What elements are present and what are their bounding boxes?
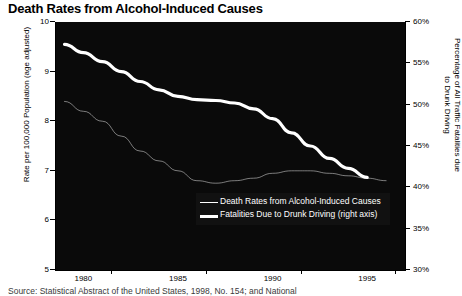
chart-legend: Death Rates from Alcohol-Induced Causes … [196,193,390,225]
legend-swatch-thin-line-icon [198,198,220,207]
legend-swatch-thick-line-icon [198,211,220,220]
plot-canvas [55,22,405,270]
legend-item-label: Fatalities Due to Drunk Driving (right a… [220,209,377,219]
legend-item-label: Death Rates from Alcohol-Induced Causes [220,196,381,206]
tick-mark [395,270,396,274]
tick-mark [111,270,112,274]
tick-mark [405,21,410,22]
legend-item: Fatalities Due to Drunk Driving (right a… [198,209,388,220]
tick-mark [206,270,207,274]
tick-mark [405,228,410,229]
left-axis-line [55,22,56,271]
x-axis-tick-label: 1990 [253,274,293,283]
x-axis-tick-label: 1995 [347,274,387,283]
data-line-death-rates [65,101,387,183]
right-axis-tick-label: 30% [413,265,447,274]
x-axis-tick-label: 1985 [158,274,198,283]
left-axis-label: Rate per 100,000 Population (age adjuste… [22,25,31,185]
tick-mark [50,21,55,22]
left-axis-tick-label: 5 [19,265,49,274]
tick-mark [405,269,410,270]
tick-mark [405,62,410,63]
tick-mark [405,186,410,187]
bottom-axis-line [55,270,406,271]
tick-mark [50,71,55,72]
source-note: Source: Statistical Abstract of the Unit… [8,286,451,296]
right-axis-tick-label: 40% [413,182,447,191]
chart-title: Death Rates from Alcohol-Induced Causes [8,1,263,16]
tick-mark [50,269,55,270]
tick-mark [405,145,410,146]
right-axis-label: Percentage of All Traffic Fatalities due… [442,35,462,175]
x-axis-tick-label: 1980 [63,274,103,283]
tick-mark [405,104,410,105]
right-axis-tick-label: 60% [413,17,447,26]
tick-mark [301,270,302,274]
tick-mark [50,219,55,220]
tick-mark [50,170,55,171]
tick-mark [50,120,55,121]
right-axis-tick-label: 35% [413,224,447,233]
right-axis-line [405,22,406,271]
plot-area [55,22,405,270]
legend-item: Death Rates from Alcohol-Induced Causes [198,196,388,207]
left-axis-tick-label: 6 [19,215,49,224]
data-line-drunk-driving [65,44,368,177]
